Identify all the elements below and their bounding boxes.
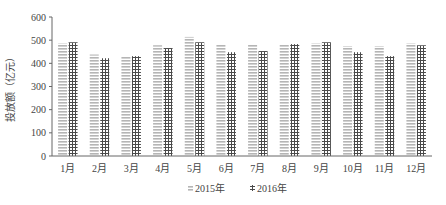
x-tick-label: 10月 [343,163,363,174]
bar-2016年 [385,56,394,156]
bar-chart: 0100200300400500600 投放额（亿元） 1月2月3月4月5月6月… [0,0,446,205]
legend-label: 2016年 [257,182,287,194]
bar-group [58,42,78,156]
legend: 2015年2016年 [188,182,287,194]
bar-2016年 [322,42,331,156]
y-tick-label: 300 [31,81,46,92]
bar-2016年 [259,51,268,156]
bar-2016年 [69,42,78,156]
bar-2015年 [216,44,225,156]
bar-group [311,42,331,156]
bar-2015年 [90,55,99,156]
y-tick-label: 0 [41,151,46,162]
bar-2016年 [195,42,204,156]
bar-2015年 [248,44,257,156]
bar-2016年 [354,52,363,156]
bar-2016年 [100,58,109,156]
y-axis: 0100200300400500600 [31,12,52,162]
legend-swatch-icon [250,185,255,191]
bar-group [121,56,141,156]
bar-group [248,44,268,156]
x-tick-label: 2月 [92,163,107,174]
bar-2015年 [406,43,415,156]
bar-group [90,55,110,156]
legend-item: 2015年 [188,182,225,194]
y-tick-label: 500 [31,35,46,46]
x-tick-label: 12月 [406,163,426,174]
x-tick-label: 11月 [375,163,395,174]
bar-group [185,37,205,156]
x-tick-label: 3月 [124,163,139,174]
bar-2015年 [311,43,320,156]
bar-group [375,46,395,156]
bar-2015年 [153,45,162,156]
legend-swatch-icon [188,185,193,191]
y-axis-title: 投放额（亿元） [4,52,16,122]
bar-2016年 [164,48,173,156]
x-tick-label: 9月 [314,163,329,174]
bar-group [216,44,236,156]
y-tick-label: 600 [31,12,46,23]
x-tick-label: 4月 [155,163,170,174]
bar-group [280,44,300,156]
bar-group [406,43,426,156]
legend-label: 2015年 [195,182,225,194]
bar-2015年 [375,46,384,156]
bar-2016年 [227,52,236,156]
bar-2015年 [121,56,130,156]
bars [58,37,426,156]
x-axis: 1月2月3月4月5月6月7月8月9月10月11月12月 [52,156,432,174]
bar-group [343,46,363,156]
bar-2016年 [290,44,299,156]
x-tick-label: 6月 [219,163,234,174]
bar-2016年 [417,45,426,156]
x-tick-label: 7月 [250,163,265,174]
bar-2015年 [343,46,352,156]
bar-2016年 [132,56,141,156]
y-tick-label: 100 [31,127,46,138]
bar-group [153,45,173,156]
y-axis-label: 投放额（亿元） [4,52,16,122]
x-tick-label: 1月 [60,163,75,174]
x-tick-label: 8月 [282,163,297,174]
bar-2015年 [280,44,289,156]
y-tick-label: 400 [31,58,46,69]
bar-2015年 [185,37,194,156]
bar-2015年 [58,43,67,156]
y-tick-label: 200 [31,104,46,115]
x-tick-label: 5月 [187,163,202,174]
legend-item: 2016年 [250,182,287,194]
